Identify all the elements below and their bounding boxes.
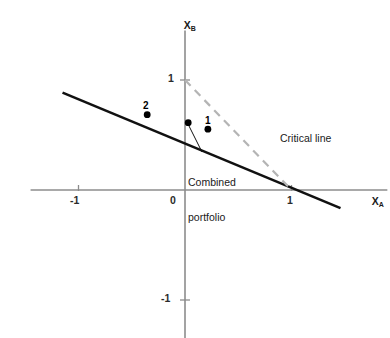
x-tick-label-neg1: -1 (70, 195, 79, 207)
x-axis-title-base: X (372, 195, 379, 207)
combined-portfolio-label: Combined portfolio (188, 153, 236, 247)
y-axis-title-subscript: B (191, 25, 196, 32)
x-axis-title-subscript: A (379, 201, 384, 208)
x-axis-title: XA (360, 184, 384, 219)
y-axis-title: XB (172, 8, 196, 43)
y-tick-label-1: 1 (168, 73, 174, 85)
combined-portfolio-label-line1: Combined (188, 177, 236, 189)
data-point-marker-1 (204, 126, 211, 133)
y-tick-label-neg1: -1 (161, 293, 170, 305)
combined-portfolio-label-line2: portfolio (188, 212, 236, 224)
critical-line-label: Critical line (280, 133, 331, 145)
data-point-marker-combined (185, 119, 192, 126)
data-point-label-1: 1 (205, 115, 211, 126)
chart-figure: XB XA -1 0 1 1 -1 2 1 Critical line Comb… (0, 0, 390, 338)
y-axis-title-base: X (184, 19, 191, 31)
x-tick-label-zero: 0 (170, 195, 176, 207)
data-point-label-2: 2 (143, 100, 149, 111)
x-tick-label-1: 1 (287, 195, 293, 207)
data-point-marker-2 (144, 111, 151, 118)
